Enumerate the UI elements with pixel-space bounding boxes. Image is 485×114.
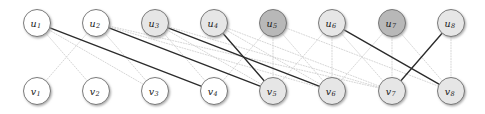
node-circle-v4[interactable] — [201, 78, 228, 105]
node-v7[interactable]: v7 — [379, 78, 406, 105]
node-circle-u8[interactable] — [438, 10, 465, 37]
dotted-edge-u1-v3 — [49, 30, 143, 84]
node-v2[interactable]: v2 — [83, 78, 110, 105]
node-u2[interactable]: u2 — [83, 10, 110, 37]
node-circle-v1[interactable] — [24, 78, 51, 105]
node-circle-v3[interactable] — [142, 78, 169, 105]
node-v5[interactable]: v5 — [260, 78, 287, 105]
node-u8[interactable]: u8 — [438, 10, 465, 37]
node-u4[interactable]: u4 — [201, 10, 228, 37]
node-circle-u1[interactable] — [24, 10, 51, 37]
node-u1[interactable]: u1 — [24, 10, 51, 37]
dotted-edge-u3-v5 — [167, 30, 261, 84]
node-circle-v2[interactable] — [83, 78, 110, 105]
node-v4[interactable]: v4 — [201, 78, 228, 105]
node-u5[interactable]: u5 — [260, 10, 287, 37]
solid-edge-u6-v8 — [344, 30, 439, 84]
graph-canvas: u1u2u3u4u5u6u7u8v1v2v3v4v5v6v7v8 — [0, 0, 485, 114]
node-circle-u7[interactable] — [379, 10, 406, 37]
node-circle-u5[interactable] — [260, 10, 287, 37]
node-u6[interactable]: u6 — [319, 10, 346, 37]
node-circle-v5[interactable] — [260, 78, 287, 105]
bipartite-graph-figure: u1u2u3u4u5u6u7u8v1v2v3v4v5v6v7v8 — [0, 0, 485, 114]
node-v1[interactable]: v1 — [24, 78, 51, 105]
solid-edge-layer — [50, 28, 442, 86]
node-u7[interactable]: u7 — [379, 10, 406, 37]
node-u3[interactable]: u3 — [142, 10, 169, 37]
node-circle-u3[interactable] — [142, 10, 169, 37]
node-circle-v8[interactable] — [438, 78, 465, 105]
node-circle-v6[interactable] — [319, 78, 346, 105]
node-circle-u2[interactable] — [83, 10, 110, 37]
node-v6[interactable]: v6 — [319, 78, 346, 105]
node-v3[interactable]: v3 — [142, 78, 169, 105]
node-circle-v7[interactable] — [379, 78, 406, 105]
node-circle-u4[interactable] — [201, 10, 228, 37]
node-circle-u6[interactable] — [319, 10, 346, 37]
node-v8[interactable]: v8 — [438, 78, 465, 105]
